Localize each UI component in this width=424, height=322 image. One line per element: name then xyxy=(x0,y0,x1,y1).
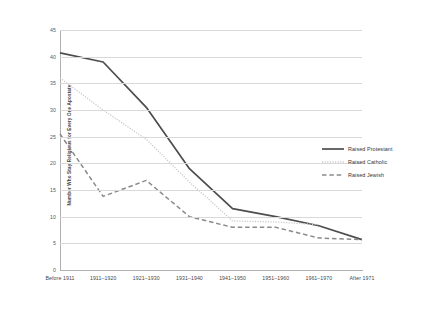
gridline xyxy=(60,30,362,31)
legend-swatch-icon xyxy=(322,158,344,166)
x-tick-label: After 1971 xyxy=(350,275,375,281)
y-tick-label: 5 xyxy=(36,240,56,246)
series-line xyxy=(60,78,319,225)
gridline xyxy=(60,110,362,111)
series-line xyxy=(60,134,362,240)
plot-area xyxy=(60,30,362,270)
y-tick-label: 30 xyxy=(36,107,56,113)
y-tick-label: 0 xyxy=(36,267,56,273)
gridline xyxy=(60,137,362,138)
legend-label: Raised Catholic xyxy=(348,159,387,165)
legend-swatch-icon xyxy=(322,145,344,153)
chart-figure: Number Who Stay Religious for Every One … xyxy=(0,0,424,322)
x-tick-label: 1921–1930 xyxy=(133,275,160,281)
series-line xyxy=(60,53,362,240)
x-tick-label: 1951–1960 xyxy=(262,275,289,281)
gridline xyxy=(60,243,362,244)
y-tick-label: 45 xyxy=(36,27,56,33)
x-axis-line xyxy=(60,270,363,271)
gridline xyxy=(60,57,362,58)
y-tick-label: 35 xyxy=(36,80,56,86)
legend-item[interactable]: Raised Protestant xyxy=(322,142,422,155)
gridline xyxy=(60,83,362,84)
y-tick-label: 20 xyxy=(36,160,56,166)
y-tick-label: 25 xyxy=(36,134,56,140)
series-lines xyxy=(60,30,362,270)
legend-item[interactable]: Raised Catholic xyxy=(322,155,422,168)
legend-swatch-icon xyxy=(322,171,344,179)
y-axis-tick-labels: 051015202530354045 xyxy=(32,30,56,270)
x-axis-tick-labels: Before 19111911–19201921–19301931–194019… xyxy=(60,275,362,291)
legend-item[interactable]: Raised Jewish xyxy=(322,168,422,181)
chart-legend: Raised ProtestantRaised CatholicRaised J… xyxy=(322,142,422,181)
gridline xyxy=(60,190,362,191)
y-tick-label: 15 xyxy=(36,187,56,193)
x-tick-label: 1911–1920 xyxy=(90,275,116,281)
x-tick-label: 1931–1940 xyxy=(176,275,203,281)
legend-label: Raised Protestant xyxy=(348,146,393,152)
legend-label: Raised Jewish xyxy=(348,172,384,178)
x-tick-label: 1961–1970 xyxy=(305,275,332,281)
gridline xyxy=(60,217,362,218)
x-tick-label: Before 1911 xyxy=(46,275,75,281)
y-tick-label: 40 xyxy=(36,54,56,60)
x-tick-label: 1941–1950 xyxy=(219,275,246,281)
y-tick-label: 10 xyxy=(36,214,56,220)
gridline xyxy=(60,163,362,164)
